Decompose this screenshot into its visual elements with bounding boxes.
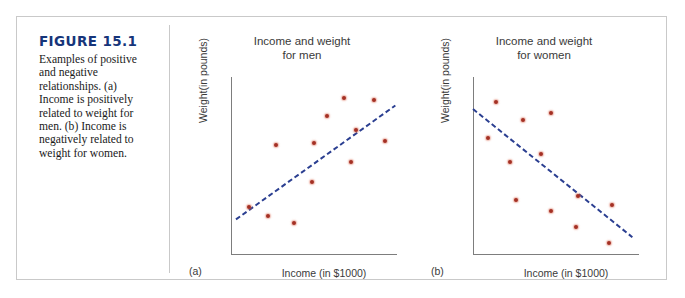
data-point [486, 136, 490, 140]
figure-caption-text: Examples of positive and negative relati… [39, 53, 145, 160]
chart-b-title: Income and weight for women [429, 35, 659, 62]
data-point [549, 111, 553, 115]
data-point [342, 96, 346, 100]
chart-b-title-line1: Income and weight [429, 35, 659, 49]
data-point [607, 241, 611, 245]
data-point [310, 180, 314, 184]
chart-panel-a: Income and weight for men Weight(in poun… [187, 25, 417, 273]
chart-a-trend-line [231, 77, 397, 255]
data-point [292, 221, 296, 225]
chart-b-panel-letter: (b) [431, 265, 444, 277]
data-point [274, 143, 278, 147]
data-point [494, 100, 498, 104]
data-point [508, 160, 512, 164]
data-point [539, 152, 543, 156]
data-point [349, 160, 353, 164]
chart-a-title-line2: for men [187, 49, 417, 63]
chart-b-title-line2: for women [429, 49, 659, 63]
figure-caption-block: FIGURE 15.1 Examples of positive and neg… [39, 33, 145, 160]
data-point [325, 114, 329, 118]
chart-a-y-axis [231, 77, 232, 255]
chart-a-panel-letter: (a) [189, 265, 202, 277]
data-point [247, 205, 251, 209]
data-point [610, 203, 614, 207]
data-point [521, 118, 525, 122]
figure-frame: FIGURE 15.1 Examples of positive and neg… [16, 16, 667, 280]
data-point [372, 98, 376, 102]
chart-b-trend-line [473, 77, 639, 255]
chart-a-y-axis-label: Weight(in pounds) [197, 13, 209, 123]
data-point [549, 209, 553, 213]
data-point [514, 198, 518, 202]
data-point [312, 141, 316, 145]
figure-number: FIGURE 15.1 [39, 33, 145, 49]
chart-b-x-axis [473, 254, 639, 255]
chart-b-y-axis [473, 77, 474, 255]
data-point [383, 139, 387, 143]
data-point [354, 128, 358, 132]
data-point [574, 225, 578, 229]
chart-a-x-axis-label: Income (in $1000) [241, 267, 407, 279]
data-point [266, 214, 270, 218]
chart-b-x-axis-label: Income (in $1000) [483, 267, 649, 279]
chart-panel-b: Income and weight for women Weight(in po… [429, 25, 659, 273]
chart-b-y-axis-label: Weight(in pounds) [439, 13, 451, 123]
chart-a-plot-area: Weight(in pounds) Income (in $1000) (a) [231, 77, 397, 255]
data-point [576, 194, 580, 198]
chart-a-title: Income and weight for men [187, 35, 417, 62]
chart-a-title-line1: Income and weight [187, 35, 417, 49]
chart-a-x-axis [231, 254, 397, 255]
chart-b-plot-area: Weight(in pounds) Income (in $1000) (b) [473, 77, 639, 255]
caption-divider [169, 25, 170, 273]
